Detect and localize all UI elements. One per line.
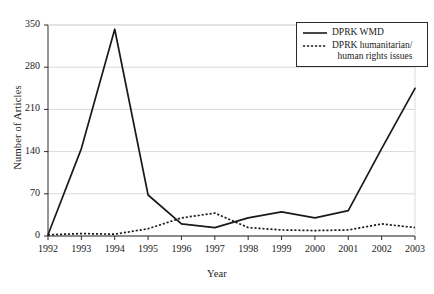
legend-label-dprk-wmd: DPRK WMD <box>332 27 384 38</box>
legend-label-line2: human rights issues <box>332 51 412 62</box>
legend-label-line1: DPRK humanitarian/ <box>332 40 412 50</box>
chart-legend: DPRK WMD DPRK humanitarian/ human rights… <box>296 22 428 67</box>
y-tick-label: 70 <box>10 187 40 198</box>
series-line-1 <box>48 213 415 235</box>
x-axis-title: Year <box>0 268 434 279</box>
y-tick-label: 280 <box>10 60 40 71</box>
legend-item-dprk-humanitarian: DPRK humanitarian/ human rights issues <box>302 40 422 62</box>
y-tick-label: 350 <box>10 18 40 29</box>
legend-label-dprk-humanitarian: DPRK humanitarian/ human rights issues <box>332 40 412 62</box>
y-axis-title: Number of Articles <box>12 68 23 188</box>
legend-solid-line-icon <box>302 27 328 38</box>
y-tick-label: 140 <box>10 145 40 156</box>
y-tick-label: 210 <box>10 102 40 113</box>
x-tick-label: 2003 <box>395 243 434 254</box>
legend-item-dprk-wmd: DPRK WMD <box>302 27 422 38</box>
chart-figure: Number of Articles Year 070140210280350 … <box>0 0 434 294</box>
y-tick-label: 0 <box>10 229 40 240</box>
legend-dotted-line-icon <box>302 40 328 51</box>
